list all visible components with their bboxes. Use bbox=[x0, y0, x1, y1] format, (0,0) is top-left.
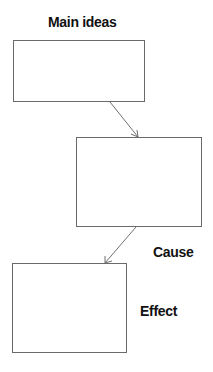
arrow-main-to-cause-icon bbox=[110, 102, 138, 137]
connector-arrows bbox=[0, 0, 213, 372]
arrow-cause-to-effect-icon bbox=[105, 227, 136, 263]
